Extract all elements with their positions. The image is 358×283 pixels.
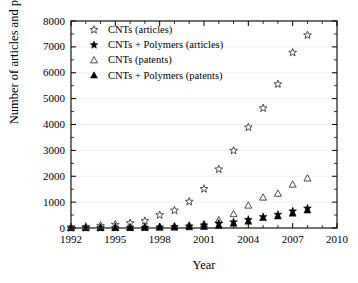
marker-star-open (289, 48, 297, 55)
marker-star-open (126, 219, 134, 226)
y-tick-label: 0 (60, 222, 66, 234)
y-tick-label: 7000 (43, 40, 66, 52)
marker-triangle-open (230, 210, 237, 216)
x-tick-label: 1998 (149, 233, 172, 245)
marker-triangle-open (289, 181, 296, 187)
marker-star-open (171, 206, 179, 213)
y-axis-label: Number of articles and patents (7, 0, 22, 148)
x-axis-label: Year (71, 258, 337, 273)
scatter-plot: 010002000300040005000600070008000 199219… (0, 0, 358, 283)
y-tick-label: 6000 (43, 66, 66, 78)
x-tick-label: 2001 (193, 233, 215, 245)
y-tick-label: 2000 (43, 170, 66, 182)
x-tick-label: 1995 (104, 233, 127, 245)
marker-triangle-open (245, 202, 252, 208)
marker-triangle-open (91, 57, 98, 63)
marker-star-open (185, 198, 193, 205)
data-series-group (67, 31, 311, 231)
marker-triangle-open (304, 175, 311, 181)
y-tick-label: 4000 (43, 118, 66, 130)
legend-label: CNTs (articles) (108, 24, 173, 36)
marker-star-open (156, 211, 164, 218)
legend-label: CNTs (patents) (108, 54, 172, 66)
marker-star-open (259, 104, 267, 111)
x-tick-label: 2010 (326, 233, 349, 245)
y-tick-label: 5000 (43, 92, 66, 104)
marker-star-open (141, 217, 149, 224)
marker-star-open (274, 80, 282, 87)
y-axis-tick-labels: 010002000300040005000600070008000 (43, 15, 66, 234)
marker-triangle-open (274, 190, 281, 196)
series-cnts-polymers-articles (67, 204, 311, 231)
chart-figure: 010002000300040005000600070008000 199219… (0, 0, 358, 283)
x-axis-tick-labels: 1992199519982001200420072010 (60, 233, 349, 245)
marker-star-open (200, 185, 208, 192)
series-cnts-articles (67, 31, 311, 230)
chart-legend: CNTs (articles)CNTs + Polymers (articles… (90, 24, 224, 82)
marker-star-open (215, 165, 223, 172)
y-tick-label: 8000 (43, 15, 66, 27)
legend-label: CNTs + Polymers (articles) (108, 39, 224, 51)
x-tick-label: 1992 (60, 233, 82, 245)
y-tick-label: 3000 (43, 144, 66, 156)
marker-star-open (90, 26, 98, 33)
x-tick-label: 2007 (282, 233, 305, 245)
y-tick-label: 1000 (43, 196, 66, 208)
x-tick-label: 2004 (237, 233, 260, 245)
marker-triangle-open (260, 194, 267, 200)
legend-label: CNTs + Polymers (patents) (108, 70, 223, 82)
marker-star-open (304, 31, 312, 38)
